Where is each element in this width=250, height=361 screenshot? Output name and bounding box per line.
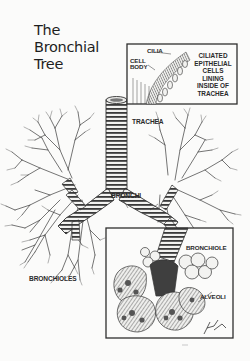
title-line-1: The xyxy=(34,22,99,39)
bronchioles-label: BRONCHIOLES xyxy=(29,275,77,282)
bronchi-label: BRONCHI xyxy=(111,192,141,199)
cell-body-label-line-2: BODY xyxy=(130,63,147,70)
caption-line-1: CILIATED xyxy=(189,52,237,60)
caption-line-6: TRACHEA xyxy=(189,90,237,98)
left-bronchiole-branches xyxy=(6,112,100,280)
title-line-2: Bronchial xyxy=(34,39,99,56)
bronchiole-label: BRONCHIOLE xyxy=(186,244,227,251)
caption-line-4: LINING xyxy=(189,75,237,83)
left-fine-twigs xyxy=(1,106,105,285)
alveoli-label: ALVEOLI xyxy=(200,293,226,300)
trachea-label: TRACHEA xyxy=(132,118,164,125)
title-line-3: Tree xyxy=(34,56,99,73)
ciliated-cells-caption: CILIATED EPITHELIAL CELLS LINING INSIDE … xyxy=(189,52,237,98)
caption-line-3: CELLS xyxy=(189,67,237,75)
caption-line-5: INSIDE OF xyxy=(189,82,237,90)
cilia-label: CILIA xyxy=(147,47,163,54)
caption-line-2: EPITHELIAL xyxy=(189,60,237,68)
trachea-tube xyxy=(106,97,127,196)
bronchial-tree-illustration: The Bronchial Tree CILIA CELL BODY CILIA… xyxy=(0,0,250,361)
illustration-title: The Bronchial Tree xyxy=(34,22,99,73)
